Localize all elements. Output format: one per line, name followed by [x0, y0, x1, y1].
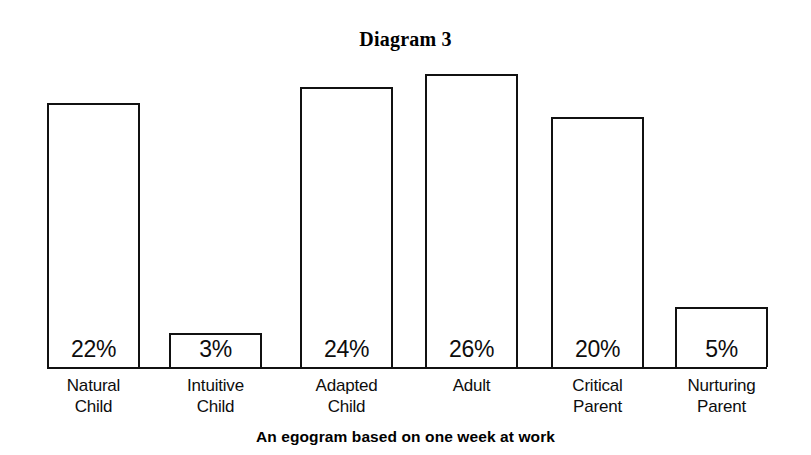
category-label-adult: Adult	[413, 375, 530, 396]
category-label-adapted-child: Adapted Child	[288, 375, 405, 417]
bar-value-natural-child: 22%	[47, 336, 140, 363]
bar-critical-parent	[551, 117, 644, 367]
category-label-natural-child: Natural Child	[35, 375, 152, 417]
bar-value-nurturing-parent: 5%	[675, 336, 768, 363]
bar-value-adapted-child: 24%	[300, 336, 393, 363]
bar-value-critical-parent: 20%	[551, 336, 644, 363]
bar-adult	[425, 74, 518, 367]
category-label-critical-parent: Critical Parent	[539, 375, 656, 417]
category-label-intuitive-child: Intuitive Child	[157, 375, 274, 417]
bar-natural-child	[47, 103, 140, 367]
chart-page: Diagram 3 22% Natural Child 3% Intuitive…	[0, 0, 811, 455]
category-label-nurturing-parent: Nurturing Parent	[663, 375, 780, 417]
chart-caption: An egogram based on one week at work	[0, 428, 811, 446]
bar-value-adult: 26%	[425, 336, 518, 363]
bar-value-intuitive-child: 3%	[169, 336, 262, 363]
bar-adapted-child	[300, 87, 393, 367]
plot-area: 22% Natural Child 3% Intuitive Child 24%…	[0, 0, 811, 455]
x-axis-baseline	[47, 367, 767, 369]
